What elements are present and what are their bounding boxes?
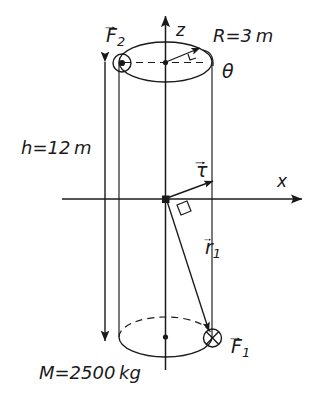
torque-symbol: τ: [196, 161, 207, 180]
position-vector-label: r 1: [205, 238, 221, 261]
force2-letter: F: [106, 24, 117, 46]
right-angle-marker: [177, 201, 191, 215]
force1-symbol: F: [231, 337, 242, 356]
diagram-canvas: [0, 0, 314, 401]
position-vector-symbol: r: [205, 238, 213, 257]
position-vector-subscript: 1: [213, 246, 221, 261]
radius-label: R=3 m: [213, 27, 273, 45]
torque-vector: [167, 181, 213, 198]
position-vector-letter: r: [205, 236, 213, 258]
height-label: h=12 m: [21, 139, 92, 157]
torque-letter: τ: [196, 159, 207, 181]
theta-inner-tick: [188, 54, 196, 60]
force2-subscript: 2: [117, 34, 125, 49]
mass-label: M=2500 kg: [39, 364, 141, 382]
physics-diagram: z x R=3 m θ h=12 m M=2500 kg F 2 F 1: [0, 0, 314, 401]
theta-label: θ: [222, 62, 234, 81]
z-axis-label: z: [176, 22, 185, 39]
force2-symbol: F: [106, 26, 117, 45]
x-axis-label: x: [277, 173, 287, 190]
torque-label: τ: [196, 161, 207, 180]
origin-marker: [162, 196, 170, 204]
force1-letter: F: [231, 335, 242, 357]
force1-label: F 1: [231, 337, 250, 360]
force2-label: F 2: [106, 26, 125, 49]
force1-subscript: 1: [242, 345, 250, 360]
radius-arrow: [166, 48, 200, 62]
position-vector-r1: [167, 201, 209, 331]
